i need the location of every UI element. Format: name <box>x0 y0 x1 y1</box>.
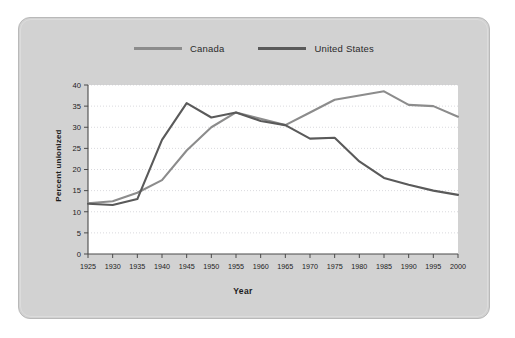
x-tick-label: 1990 <box>401 262 417 271</box>
x-tick-label: 1995 <box>425 262 441 271</box>
figure-root: Canada United States Percent unionized Y… <box>0 0 515 338</box>
y-tick-label: 35 <box>73 102 81 111</box>
x-tick-label: 1960 <box>253 262 269 271</box>
x-axis-ticks: 1925193019351940194519501955196019651970… <box>80 254 466 271</box>
plot-area: 0510152025303540 19251930193519401945195… <box>0 0 515 338</box>
chart-canvas: 0510152025303540 19251930193519401945195… <box>0 0 515 338</box>
y-tick-label: 15 <box>73 186 81 195</box>
x-tick-label: 1930 <box>105 262 121 271</box>
x-tick-label: 1950 <box>203 262 219 271</box>
x-tick-label: 1935 <box>129 262 145 271</box>
x-tick-label: 2000 <box>450 262 466 271</box>
y-axis-ticks: 0510152025303540 <box>73 81 88 259</box>
y-tick-label: 0 <box>77 250 81 259</box>
y-tick-label: 5 <box>77 229 81 238</box>
x-tick-label: 1955 <box>228 262 244 271</box>
x-tick-label: 1975 <box>327 262 343 271</box>
y-tick-label: 40 <box>73 81 81 90</box>
plot-background <box>88 85 458 254</box>
x-tick-label: 1980 <box>351 262 367 271</box>
x-tick-label: 1945 <box>179 262 195 271</box>
x-tick-label: 1970 <box>302 262 318 271</box>
x-tick-label: 1925 <box>80 262 96 271</box>
y-tick-label: 10 <box>73 208 81 217</box>
x-tick-label: 1985 <box>376 262 392 271</box>
y-tick-label: 20 <box>73 165 81 174</box>
y-tick-label: 30 <box>73 123 81 132</box>
x-tick-label: 1940 <box>154 262 170 271</box>
y-tick-label: 25 <box>73 144 81 153</box>
x-tick-label: 1965 <box>277 262 293 271</box>
